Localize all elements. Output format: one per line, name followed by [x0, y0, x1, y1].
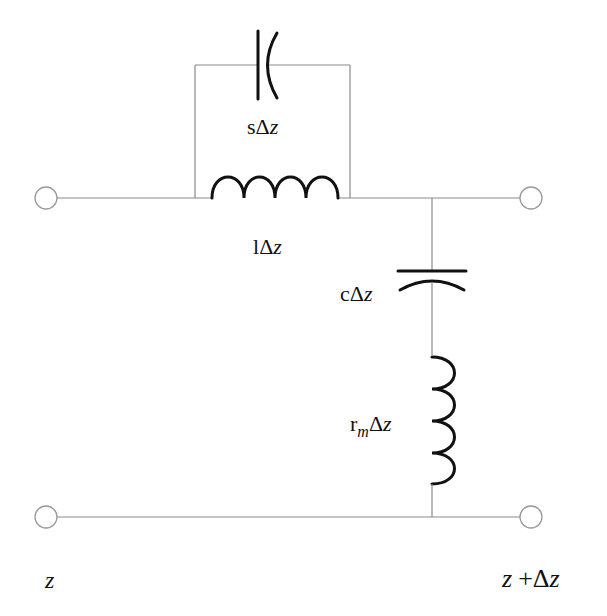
left-position-label: z	[45, 568, 54, 592]
circuit-diagram	[0, 0, 607, 616]
shunt-inductor-label: rmΔz	[350, 413, 392, 435]
terminal-bottom-right	[520, 506, 542, 528]
right-position-label: z+Δz	[502, 566, 560, 592]
shunt-inductor-symbol	[432, 357, 455, 484]
terminal-top-left	[35, 187, 57, 209]
terminal-bottom-left	[35, 506, 57, 528]
series-inductor-label: lΔz	[253, 236, 282, 258]
terminal-top-right	[520, 187, 542, 209]
series-capacitor-label: sΔz	[247, 116, 278, 138]
series-inductor-symbol	[212, 177, 338, 198]
shunt-capacitor-label: cΔz	[340, 283, 372, 305]
